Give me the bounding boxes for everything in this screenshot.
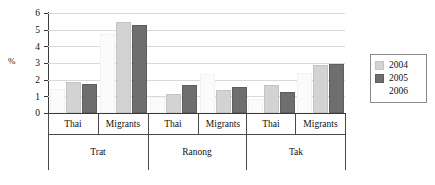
y-tick-label-6: 6 (26, 9, 40, 19)
category-label-trat-migrants: Migrants (98, 114, 148, 134)
bar-2006-ranong-migrants (200, 74, 215, 113)
bar-2004-ranong-migrants (216, 90, 231, 113)
bar-2005-ranong-migrants (232, 87, 247, 113)
y-tick-label-0: 0 (26, 109, 40, 119)
bar-2004-trat-thai (66, 82, 81, 113)
category-label-trat-thai: Thai (48, 114, 98, 134)
province-label-trat: Trat (48, 134, 148, 170)
legend-label-2004: 2004 (389, 61, 408, 71)
province-label-tak: Tak (246, 134, 346, 170)
province-label-band: Trat Ranong Tak (48, 134, 346, 170)
cat-sep-5 (295, 114, 296, 134)
plot-area (48, 13, 345, 113)
cat-sep-4 (246, 114, 247, 134)
legend-item-2004: 2004 (375, 59, 423, 72)
bar-2006-tak-migrants (297, 73, 312, 113)
prov-sep-1 (148, 134, 149, 170)
legend-item-2005: 2005 (375, 72, 423, 85)
bar-2005-tak-migrants (329, 64, 344, 114)
bar-group-ranong-migrants (198, 13, 248, 113)
cat-sep-3 (198, 114, 199, 134)
cat-sep-0 (48, 114, 49, 134)
bar-group-tak-migrants (295, 13, 345, 113)
legend-label-2005: 2005 (389, 74, 408, 84)
bar-group-trat-thai (48, 13, 98, 113)
y-tick-label-3: 3 (26, 59, 40, 69)
legend-label-2006: 2006 (389, 87, 408, 97)
bar-2004-tak-thai (264, 85, 279, 113)
legend-item-2006: 2006 (375, 85, 423, 98)
cat-sep-6 (345, 114, 346, 134)
bar-2005-trat-migrants (132, 25, 147, 113)
y-tick-label-5: 5 (26, 26, 40, 36)
y-axis-title: % (8, 56, 16, 66)
category-label-tak-migrants: Migrants (295, 114, 346, 134)
prov-sep-3 (345, 134, 346, 170)
bar-group-tak-thai (246, 13, 296, 113)
y-tick-label-1: 1 (26, 93, 40, 103)
bar-2006-trat-migrants (100, 34, 115, 113)
province-label-ranong: Ranong (148, 134, 246, 170)
bar-2005-tak-thai (280, 92, 295, 113)
bar-chart-figure: % 6 5 4 3 2 1 0 (0, 0, 435, 185)
y-tick-label-4: 4 (26, 43, 40, 53)
bar-2005-trat-thai (82, 84, 97, 114)
legend-swatch-2005-icon (375, 74, 384, 83)
y-tick-label-2: 2 (26, 76, 40, 86)
category-label-band: Thai Migrants Thai Migrants Thai Migrant… (48, 114, 346, 134)
bar-2006-trat-thai (50, 89, 65, 113)
bar-group-trat-migrants (98, 13, 148, 113)
bar-2005-ranong-thai (182, 85, 197, 113)
bar-2004-tak-migrants (313, 65, 328, 113)
cat-sep-2 (148, 114, 149, 134)
bar-2006-ranong-thai (150, 97, 165, 113)
category-label-ranong-thai: Thai (148, 114, 198, 134)
category-label-tak-thai: Thai (246, 114, 296, 134)
bar-group-ranong-thai (148, 13, 198, 113)
legend-swatch-2006-icon (375, 87, 384, 96)
prov-sep-0 (48, 134, 49, 170)
bar-2004-ranong-thai (166, 94, 181, 114)
cat-sep-1 (98, 114, 99, 134)
category-label-ranong-migrants: Migrants (198, 114, 248, 134)
prov-sep-2 (246, 134, 247, 170)
legend: 2004 2005 2006 (370, 54, 427, 103)
legend-swatch-2004-icon (375, 61, 384, 70)
bar-2006-tak-thai (248, 99, 263, 114)
bar-2004-trat-migrants (116, 22, 131, 113)
